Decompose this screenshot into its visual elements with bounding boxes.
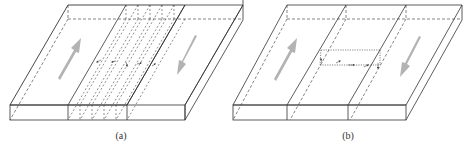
shear-arrow-b-left-up bbox=[274, 38, 297, 81]
panel-a bbox=[10, 0, 243, 120]
caption-b: (b) bbox=[328, 130, 368, 141]
slab-b-front-face bbox=[233, 105, 406, 120]
fault-zone-a-right bbox=[127, 5, 185, 105]
caption-a: (a) bbox=[101, 130, 141, 141]
fault-zone-b-right bbox=[348, 5, 406, 105]
displacement-arrows-b bbox=[321, 59, 378, 68]
hidden-edges-a bbox=[10, 5, 243, 120]
shear-arrow-a-left-up bbox=[58, 38, 81, 80]
dotted-subregion-b bbox=[320, 50, 380, 65]
slab-a-front-face bbox=[10, 105, 185, 120]
shear-arrow-b-right-down bbox=[400, 36, 421, 77]
shear-arrow-a-right-down bbox=[177, 35, 197, 75]
diagram-canvas bbox=[0, 0, 466, 149]
fault-planes-a bbox=[68, 5, 185, 120]
hidden-edges-b bbox=[233, 5, 462, 120]
panel-b bbox=[233, 5, 462, 120]
slab-b-top-face bbox=[233, 5, 462, 105]
fault-zone-b-left bbox=[287, 5, 346, 105]
